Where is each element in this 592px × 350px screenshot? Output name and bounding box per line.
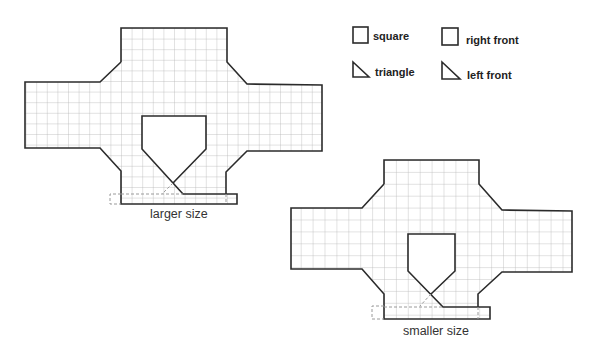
large-dashed-flap	[110, 194, 121, 204]
right-front-square-icon	[442, 28, 458, 45]
legend-label-right-front: right front	[466, 34, 519, 46]
triangle-icon	[353, 62, 369, 77]
caption-larger-size: larger size	[150, 207, 208, 221]
legend-label-left-front: left front	[467, 69, 512, 81]
large-template-shape	[25, 28, 322, 204]
small-dashed-flap	[372, 306, 384, 319]
square-icon	[353, 27, 368, 43]
legend-label-square: square	[373, 30, 409, 42]
caption-smaller-size: smaller size	[403, 324, 469, 338]
legend-label-triangle: triangle	[375, 66, 415, 78]
left-front-triangle-icon	[442, 62, 460, 79]
templates-diagram	[0, 0, 592, 350]
small-template-shape	[291, 160, 572, 319]
